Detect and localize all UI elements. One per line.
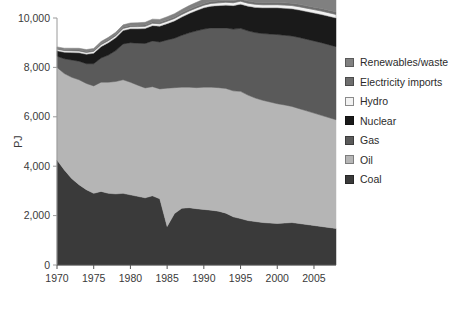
- x-tick-label: 1995: [229, 272, 253, 284]
- y-tick-label: 8,000: [24, 61, 50, 73]
- x-tick-label: 1990: [192, 272, 216, 284]
- legend-item[interactable]: Oil: [345, 154, 448, 166]
- x-tick-label: 1975: [82, 272, 106, 284]
- legend-swatch-icon: [345, 175, 354, 184]
- legend-label: Gas: [360, 134, 379, 146]
- legend-swatch-icon: [345, 116, 354, 125]
- y-axis-title: PJ: [12, 135, 24, 147]
- y-tick-label: 2,000: [24, 209, 50, 221]
- x-tick-label: 2000: [266, 272, 290, 284]
- legend-label: Renewables/waste: [360, 56, 448, 68]
- legend-swatch-icon: [345, 77, 354, 86]
- x-tick-label: 1985: [155, 272, 179, 284]
- legend-swatch-icon: [345, 155, 354, 164]
- legend-swatch-icon: [345, 97, 354, 106]
- x-tick-label: 2005: [302, 272, 326, 284]
- y-tick-label: 6,000: [24, 110, 50, 122]
- legend-item[interactable]: Hydro: [345, 95, 448, 107]
- legend-label: Hydro: [360, 95, 388, 107]
- y-tick-label: 4,000: [24, 160, 50, 172]
- legend-item[interactable]: Gas: [345, 134, 448, 146]
- legend-label: Nuclear: [360, 115, 396, 127]
- legend-swatch-icon: [345, 58, 354, 67]
- area-series-group: [57, 0, 336, 265]
- x-tick-label: 1980: [119, 272, 143, 284]
- legend-item[interactable]: Renewables/waste: [345, 56, 448, 68]
- legend-item[interactable]: Coal: [345, 173, 448, 185]
- legend-item[interactable]: Nuclear: [345, 115, 448, 127]
- legend-label: Electricity imports: [360, 76, 442, 88]
- legend-swatch-icon: [345, 136, 354, 145]
- legend-label: Oil: [360, 154, 373, 166]
- legend-label: Coal: [360, 173, 382, 185]
- y-tick-label: 0: [44, 259, 50, 271]
- legend-item[interactable]: Electricity imports: [345, 76, 448, 88]
- chart-container: 02,0004,0006,0008,00010,0001970197519801…: [0, 0, 470, 310]
- x-tick-label: 1970: [45, 272, 69, 284]
- y-tick-label: 10,000: [18, 12, 50, 24]
- chart-legend: Renewables/wasteElectricity importsHydro…: [345, 56, 448, 193]
